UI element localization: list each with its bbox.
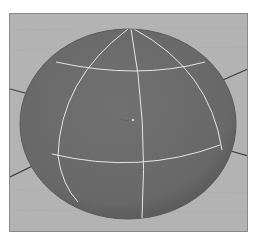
scene-canvas[interactable] (0, 0, 253, 239)
sphere-object[interactable] (20, 29, 236, 219)
